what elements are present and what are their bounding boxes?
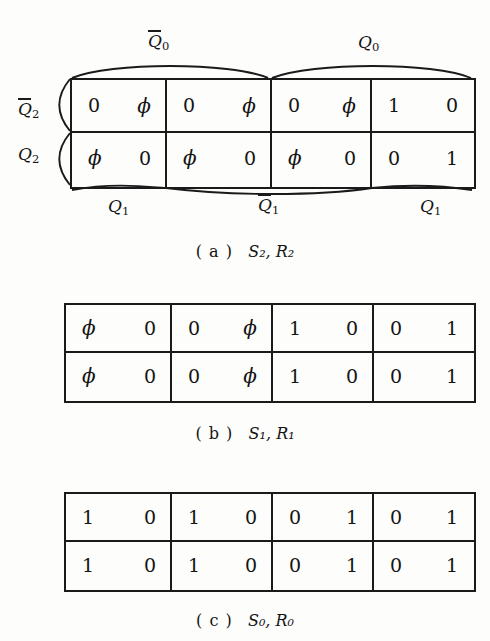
- table-c-cell-r2c2-s: 1: [188, 556, 200, 575]
- table-b-cell-r1c3-r: 0: [346, 319, 358, 338]
- left-label-q2-sub: 2: [32, 152, 39, 166]
- table-b-cell-r2c4-r: 1: [446, 367, 458, 386]
- table-a-cell-r2c1: ϕ 0: [72, 133, 167, 183]
- table-b-cell-r1c1-r: 0: [144, 319, 156, 338]
- left-label-q2: Q2: [18, 144, 39, 166]
- table-b-cell-r1c4-r: 1: [446, 319, 458, 338]
- table-a-cell-r1c1: 0 ϕ: [72, 80, 167, 131]
- figure-karnaugh-maps: Q0 Q0 Q2 Q2 Q1 Q1 Q1: [0, 0, 490, 641]
- bottom-label-q1-left: Q1: [108, 196, 129, 218]
- table-b-cell-r1c2: 0 ϕ: [172, 305, 273, 351]
- table-c-cell-r2c1-r: 0: [144, 556, 156, 575]
- table-a-cell-r2c2-s: ϕ: [183, 148, 197, 168]
- table-c-cell-r1c4-s: 0: [390, 508, 402, 527]
- table-c-cell-r1c1-s: 1: [82, 508, 94, 527]
- table-c-cell-r1c4: 0 1: [374, 494, 474, 540]
- bottom-label-q1-left-sub: 1: [122, 204, 129, 218]
- table-a-cell-r1c1-s: 0: [88, 96, 100, 115]
- table-c-cell-r2c4: 0 1: [374, 542, 474, 588]
- table-c-cell-r2c3-s: 0: [289, 556, 301, 575]
- table-b-row-1: ϕ 0 0 ϕ 1 0 0 1: [66, 305, 474, 351]
- caption-a-symbols: S₂, R₂: [248, 242, 294, 261]
- table-a-cell-r2c1-r: 0: [139, 149, 151, 168]
- table-c-cell-r2c2: 1 0: [172, 542, 273, 588]
- table-b: ϕ 0 0 ϕ 1 0 0 1 ϕ 0: [64, 303, 476, 403]
- table-b-cell-r1c1: ϕ 0: [66, 305, 172, 351]
- table-a-cell-r2c4: 0 1: [372, 133, 474, 183]
- table-b-cell-r2c4-s: 0: [390, 367, 402, 386]
- top-label-q0: Q0: [358, 32, 379, 54]
- caption-c-symbols: S₀, R₀: [248, 611, 294, 630]
- table-c-cell-r1c1: 1 0: [66, 494, 172, 540]
- bottom-label-q1-bar: Q1: [258, 194, 279, 217]
- table-a-cell-r1c2: 0 ϕ: [167, 80, 272, 131]
- table-b-cell-r1c4-s: 0: [390, 319, 402, 338]
- table-c-cell-r2c4-r: 1: [446, 556, 458, 575]
- table-c-row-2: 1 0 1 0 0 1 0 1: [66, 542, 474, 588]
- table-a: 0 ϕ 0 ϕ 0 ϕ 1 0 ϕ 0: [70, 78, 476, 189]
- caption-c-paren: ( c ): [196, 611, 233, 630]
- table-c-cell-r2c4-s: 0: [390, 556, 402, 575]
- table-a-cell-r1c4-r: 0: [446, 96, 458, 115]
- brace-left-q2: [60, 133, 71, 185]
- top-label-q0-bar: Q0: [148, 30, 169, 53]
- table-c-cell-r1c2: 1 0: [172, 494, 273, 540]
- left-label-q2-bar: Q2: [18, 98, 39, 121]
- table-a-cell-r2c3: ϕ 0: [272, 133, 372, 183]
- table-b-cell-r2c2: 0 ϕ: [172, 353, 273, 399]
- table-a-cell-r1c3: 0 ϕ: [272, 80, 372, 131]
- bottom-label-q1-right: Q1: [420, 196, 441, 218]
- arc-top-q0-bar: [72, 66, 268, 78]
- table-a-cell-r2c4-r: 1: [446, 149, 458, 168]
- table-b-cell-r2c3-r: 0: [346, 367, 358, 386]
- top-label-q0-sub: 0: [372, 40, 379, 54]
- table-a-row-1: 0 ϕ 0 ϕ 0 ϕ 1 0: [72, 80, 474, 131]
- table-a-cell-r1c4: 1 0: [372, 80, 474, 131]
- table-a-cell-r1c4-s: 1: [388, 96, 400, 115]
- table-a-cell-r1c2-s: 0: [183, 96, 195, 115]
- table-c-cell-r1c3: 0 1: [273, 494, 374, 540]
- left-label-q2-bar-sub: 2: [32, 107, 39, 121]
- table-a-row-2: ϕ 0 ϕ 0 ϕ 0 0 1: [72, 133, 474, 183]
- table-a-cell-r2c2-r: 0: [244, 149, 256, 168]
- table-a-cell-r1c1-r: ϕ: [137, 96, 151, 116]
- table-a-cell-r1c3-s: 0: [288, 96, 300, 115]
- brace-left-q2-bar: [60, 79, 71, 131]
- table-c-cell-r2c1-s: 1: [82, 556, 94, 575]
- table-c-cell-r1c4-r: 1: [446, 508, 458, 527]
- table-a-cell-r2c1-s: ϕ: [88, 148, 102, 168]
- table-c-cell-r2c3-r: 1: [346, 556, 358, 575]
- table-c-cell-r1c2-r: 0: [245, 508, 257, 527]
- top-label-q0-bar-sub: 0: [162, 39, 169, 53]
- table-c-cell-r1c2-s: 1: [188, 508, 200, 527]
- table-c-cell-r1c3-r: 1: [346, 508, 358, 527]
- table-a-cell-r1c3-r: ϕ: [342, 96, 356, 116]
- table-a-cell-r1c2-r: ϕ: [242, 96, 256, 116]
- bottom-label-q1-bar-sub: 1: [272, 203, 279, 217]
- caption-a: ( a ) S₂, R₂: [0, 242, 490, 261]
- table-b-row-2: ϕ 0 0 ϕ 1 0 0 1: [66, 353, 474, 399]
- table-a-cell-r2c3-s: ϕ: [288, 148, 302, 168]
- table-c-cell-r2c3: 0 1: [273, 542, 374, 588]
- table-c-cell-r1c1-r: 0: [144, 508, 156, 527]
- caption-a-paren: ( a ): [196, 242, 233, 261]
- table-c-cell-r1c3-s: 0: [289, 508, 301, 527]
- caption-b-symbols: S₁, R₁: [249, 424, 295, 443]
- table-b-cell-r1c1-s: ϕ: [82, 318, 96, 338]
- table-a-cell-r2c3-r: 0: [344, 149, 356, 168]
- table-b-cell-r2c1-r: 0: [144, 367, 156, 386]
- bottom-label-q1-right-sub: 1: [434, 204, 441, 218]
- table-a-cell-r2c2: ϕ 0: [167, 133, 272, 183]
- table-b-cell-r2c4: 0 1: [374, 353, 474, 399]
- table-c-cell-r2c2-r: 0: [245, 556, 257, 575]
- table-b-cell-r2c2-r: ϕ: [243, 366, 257, 386]
- table-b-cell-r1c4: 0 1: [374, 305, 474, 351]
- table-b-cell-r2c1-s: ϕ: [82, 366, 96, 386]
- caption-c: ( c ) S₀, R₀: [0, 611, 490, 630]
- caption-b: ( b ) S₁, R₁: [0, 424, 490, 443]
- table-c: 1 0 1 0 0 1 0 1 1 0: [64, 492, 476, 592]
- table-b-cell-r2c2-s: 0: [188, 367, 200, 386]
- table-b-cell-r2c1: ϕ 0: [66, 353, 172, 399]
- table-b-cell-r1c2-r: ϕ: [243, 318, 257, 338]
- table-a-cell-r2c4-s: 0: [388, 149, 400, 168]
